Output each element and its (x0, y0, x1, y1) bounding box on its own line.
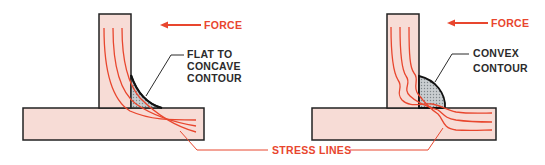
right-contour-label-2: CONTOUR (473, 62, 528, 74)
right-figure: FORCE CONVEX CONTOUR (312, 14, 529, 140)
right-force-arrow (447, 20, 488, 27)
arrow-left-icon (160, 22, 168, 29)
arrow-left-icon (447, 20, 455, 27)
left-base-plate (23, 108, 204, 140)
left-contour-label-3: CONTOUR (187, 72, 242, 84)
left-figure: FORCE FLAT TO CONCAVE CONTOUR (23, 14, 242, 140)
weld-contour-diagram: FORCE FLAT TO CONCAVE CONTOUR FORCE CONV… (0, 0, 545, 165)
right-convex-weld (419, 76, 445, 108)
left-contour-label-2: CONCAVE (187, 60, 241, 72)
right-contour-label-1: CONVEX (473, 47, 519, 59)
left-force-arrow (160, 22, 201, 29)
stress-lines-label: STRESS LINES (272, 144, 351, 156)
left-contour-label-1: FLAT TO (187, 48, 232, 60)
right-force-label: FORCE (491, 17, 529, 29)
left-contour-leader (146, 55, 184, 96)
left-force-label: FORCE (204, 19, 242, 31)
right-vertical-plate (387, 14, 419, 108)
right-contour-leader (435, 54, 469, 82)
